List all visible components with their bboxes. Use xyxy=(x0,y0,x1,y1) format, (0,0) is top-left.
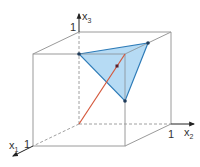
x2-label: x2 xyxy=(184,126,194,140)
intersection-point xyxy=(116,65,119,68)
x3-label: x3 xyxy=(82,10,92,24)
x1-tick: 1 xyxy=(24,138,30,150)
x3-tick: 1 xyxy=(70,21,76,33)
cube-diagram: 1 x3 1 x2 1 x1 xyxy=(0,0,200,167)
axes xyxy=(13,14,194,156)
x2-tick: 1 xyxy=(168,128,174,140)
x1-label: x1 xyxy=(9,139,19,153)
